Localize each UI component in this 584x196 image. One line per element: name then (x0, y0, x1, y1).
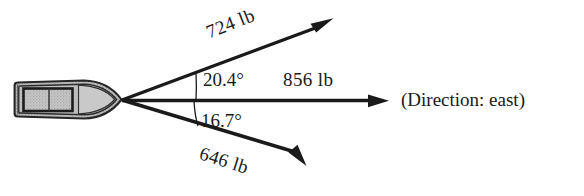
vector-arrow-856 (122, 95, 389, 108)
vector-arrowhead-724 (311, 18, 334, 32)
angle-label-20-4: 20.4° (203, 69, 244, 91)
direction-note: (Direction: east) (401, 89, 525, 111)
vector-arrows (122, 18, 389, 166)
vector-arrowhead-856 (368, 95, 389, 108)
vector-arrowhead-646 (289, 145, 307, 166)
vector-label-856: 856 lb (283, 69, 333, 91)
boat-cockpit (24, 89, 73, 112)
boat-top-view (15, 81, 122, 119)
force-vector-diagram: 724 lb 856 lb 646 lb 20.4° 16.7° (Direct… (0, 0, 584, 196)
angle-label-16-7: 16.7° (201, 110, 242, 132)
